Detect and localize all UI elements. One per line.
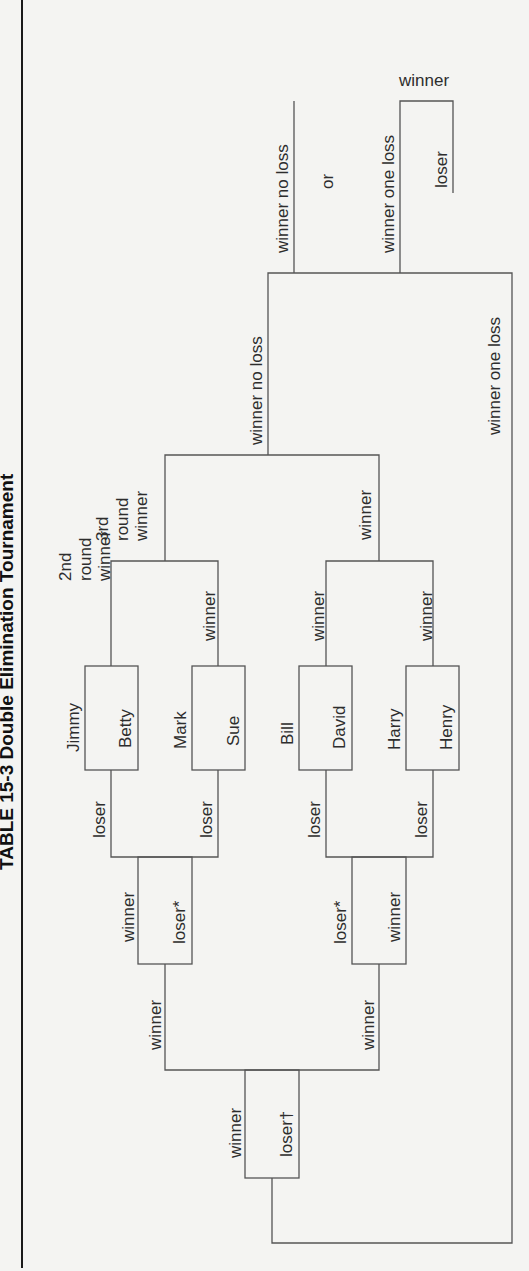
player-henry: Henry <box>438 705 455 750</box>
label-loser-4: loser <box>413 801 430 838</box>
third-round-bracket <box>165 455 379 561</box>
player-betty: Betty <box>117 709 134 748</box>
player-mark: Mark <box>172 711 189 749</box>
label-winner-r2-bottom-a: winner <box>310 591 327 641</box>
label-final-winner: winner <box>399 72 449 89</box>
label-winner-r2-top-b: winner <box>201 591 218 641</box>
label-final-box-winner: winner <box>227 1108 244 1158</box>
player-david: David <box>331 706 348 749</box>
player-harry: Harry <box>386 708 403 750</box>
label-loser-2: loser <box>198 801 215 838</box>
label-losers-winner-top: winner <box>120 892 137 942</box>
label-loser-star-bottom: loser* <box>332 901 349 944</box>
label-losers-final-winner-top: winner <box>147 1000 164 1050</box>
player-bill: Bill <box>279 722 296 745</box>
label-loser-dagger: loser† <box>278 1111 295 1157</box>
label-or: or <box>319 174 336 189</box>
label-3rd-round: 3rd round winner <box>93 491 152 541</box>
label-loser-star-top: loser* <box>171 901 188 944</box>
label-final-winner-no-loss: winner no loss <box>274 144 291 253</box>
label-final-winner-one-loss: winner one loss <box>380 135 397 253</box>
player-sue: Sue <box>225 716 242 746</box>
losers-final-bracket <box>165 964 379 1070</box>
championship-bracket <box>268 273 512 1243</box>
bracket-lines <box>0 0 529 1271</box>
label-final-loser: loser <box>433 151 450 188</box>
label-winner-one-loss: winner one loss <box>486 317 503 435</box>
label-loser-1: loser <box>91 801 108 838</box>
label-winner-no-loss: winner no loss <box>248 336 265 445</box>
label-winner-r3-bottom: winner <box>357 490 374 540</box>
label-losers-final-winner-bottom: winner <box>360 1000 377 1050</box>
label-loser-3: loser <box>306 801 323 838</box>
label-losers-winner-bottom: winner <box>386 892 403 942</box>
player-jimmy: Jimmy <box>65 703 82 752</box>
label-winner-r2-bottom-b: winner <box>418 591 435 641</box>
